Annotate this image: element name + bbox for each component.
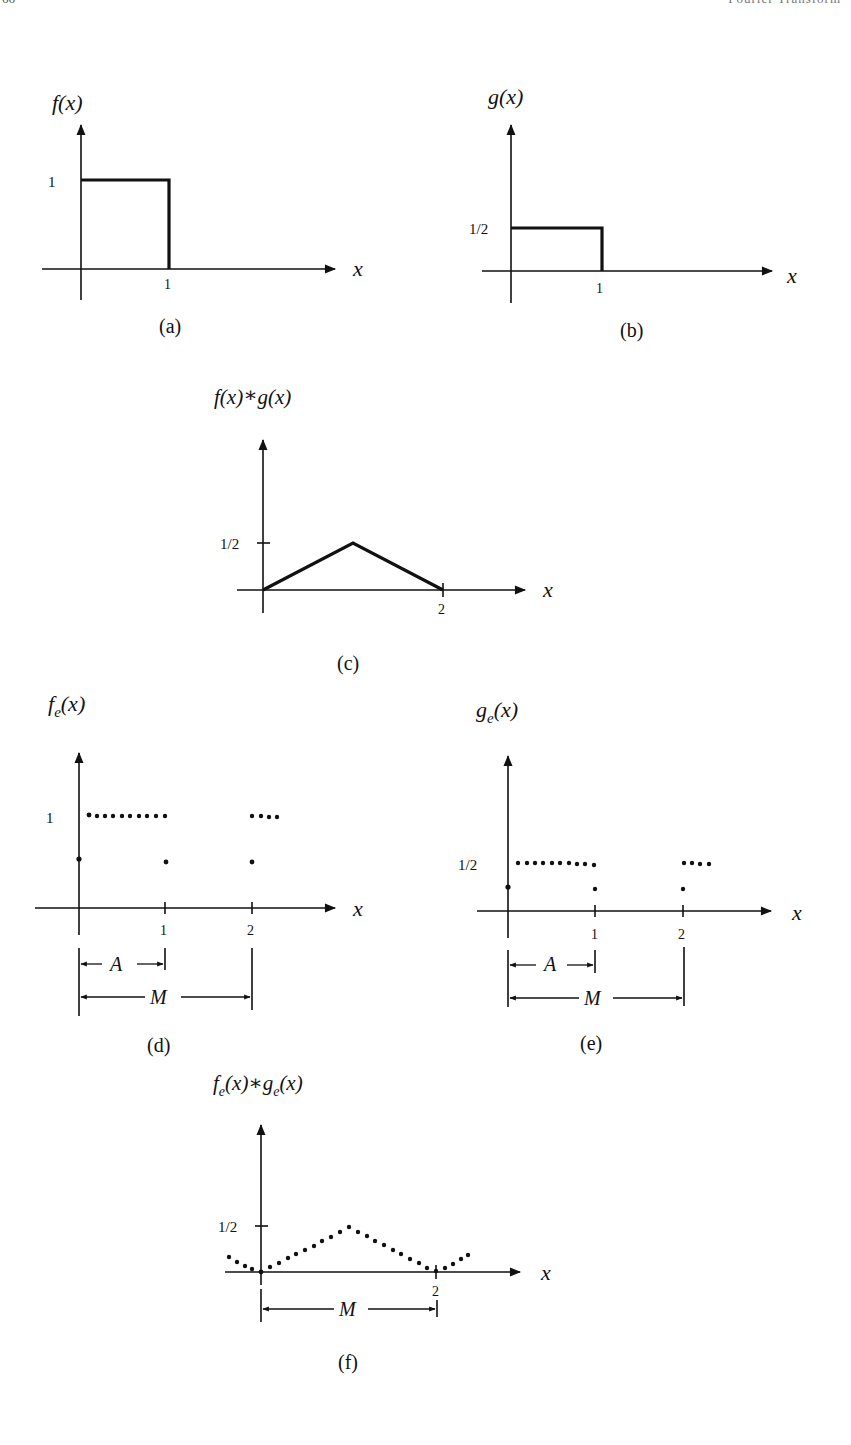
dim-a-label: A bbox=[542, 953, 557, 975]
ylabel: fe(x)∗ge(x) bbox=[213, 1071, 303, 1099]
caption: (f) bbox=[338, 1351, 358, 1374]
panel-d: fe(x) 1 1 2 x A M (d) bbox=[35, 691, 363, 1057]
xtick-label: 1 bbox=[596, 281, 603, 296]
ytick-label: 1 bbox=[48, 174, 56, 190]
xtick-label: 1 bbox=[164, 277, 171, 292]
ytick-label: 1/2 bbox=[469, 221, 488, 237]
ytick-label: 1/2 bbox=[458, 857, 477, 873]
xtick-label: 2 bbox=[432, 1284, 439, 1299]
xtick-1-label: 1 bbox=[160, 923, 167, 938]
ylabel: g(x) bbox=[488, 84, 523, 109]
rect-pulse bbox=[511, 228, 602, 271]
ylabel: fe(x) bbox=[48, 691, 85, 720]
caption: (b) bbox=[620, 319, 643, 342]
ylabel: ge(x) bbox=[476, 697, 518, 726]
ytick-label: 1/2 bbox=[218, 1219, 237, 1235]
caption: (c) bbox=[337, 652, 359, 675]
xlabel: x bbox=[786, 263, 797, 288]
xtick-label: 2 bbox=[438, 602, 445, 617]
caption: (a) bbox=[159, 315, 181, 338]
xlabel: x bbox=[791, 900, 802, 925]
sample-dots bbox=[505, 861, 711, 891]
xlabel: x bbox=[352, 256, 363, 281]
dim-m-label: M bbox=[583, 987, 602, 1009]
panel-f: fe(x)∗ge(x) 1/2 2 x M (f) bbox=[213, 1071, 551, 1374]
panel-c: f(x)∗g(x) 1/2 2 x (c) bbox=[214, 383, 553, 675]
ytick-label: 1/2 bbox=[220, 536, 239, 552]
dim-m-label: M bbox=[149, 986, 168, 1008]
xlabel: x bbox=[352, 896, 363, 921]
dim-a-label: A bbox=[108, 953, 123, 975]
ylabel: f(x)∗g(x) bbox=[214, 383, 291, 409]
xlabel: x bbox=[542, 577, 553, 602]
dim-m-label: M bbox=[338, 1298, 357, 1320]
caption: (e) bbox=[580, 1032, 602, 1055]
convolution-figure: f(x) 1 1 x (a) g(x) 1/2 1 x (b) f(x)∗g(x… bbox=[0, 0, 851, 1445]
ytick-label: 1 bbox=[46, 810, 54, 826]
sample-dots bbox=[76, 813, 279, 865]
triangle-curve bbox=[263, 543, 443, 590]
panel-a: f(x) 1 1 x (a) bbox=[42, 90, 363, 338]
panel-e: ge(x) 1/2 1 2 x A M (e) bbox=[458, 697, 802, 1055]
rect-pulse bbox=[81, 180, 169, 269]
xtick-2-label: 2 bbox=[247, 923, 254, 938]
panel-b: g(x) 1/2 1 x (b) bbox=[469, 84, 797, 342]
xtick-1-label: 1 bbox=[591, 927, 598, 942]
caption: (d) bbox=[147, 1034, 170, 1057]
convolution-dots bbox=[227, 1225, 470, 1275]
xlabel: x bbox=[540, 1260, 551, 1285]
ylabel: f(x) bbox=[52, 90, 83, 115]
xtick-2-label: 2 bbox=[678, 927, 685, 942]
